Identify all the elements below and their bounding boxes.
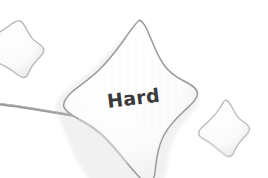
star-photo-scene: Hard — [0, 0, 268, 178]
star-illustration: Hard — [0, 0, 268, 178]
